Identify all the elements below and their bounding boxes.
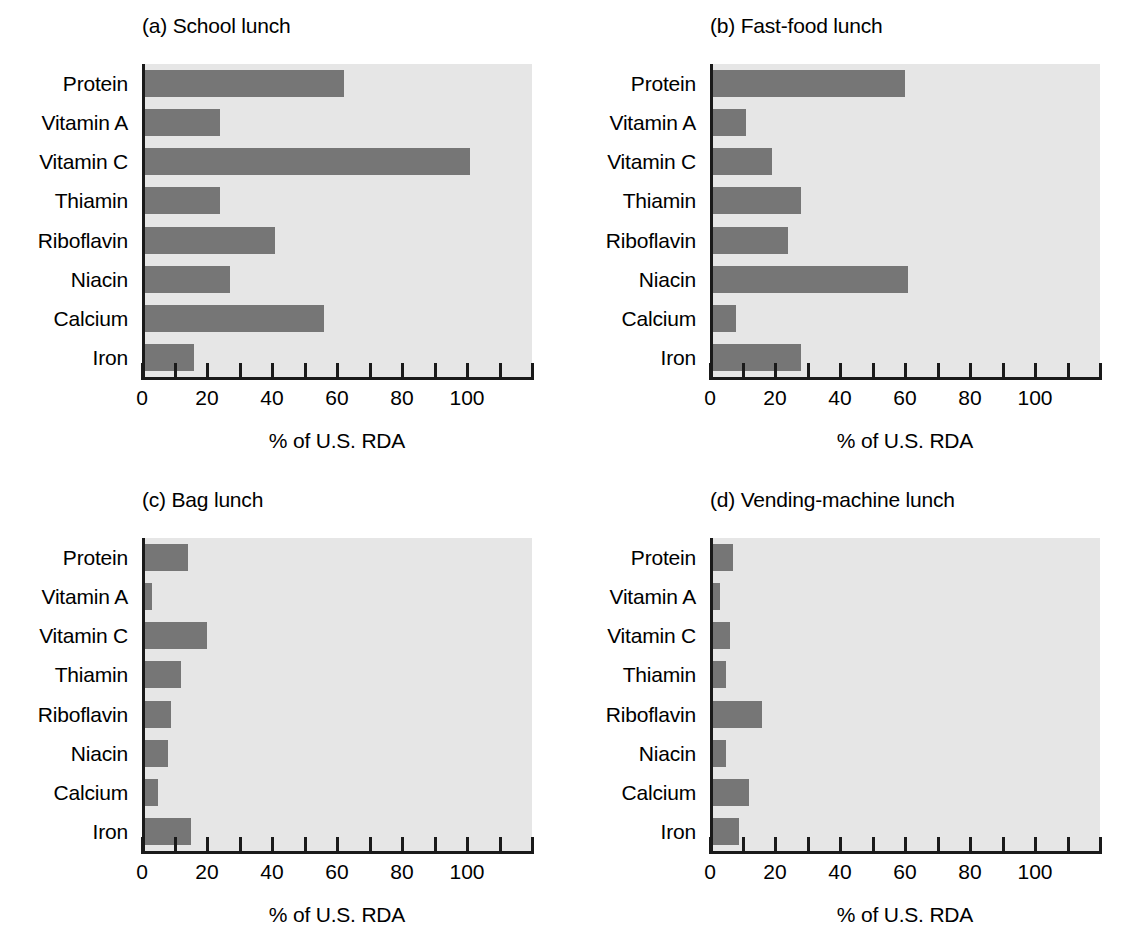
x-tick: [304, 837, 307, 854]
category-label-vitamin-c: Vitamin C: [39, 142, 128, 181]
category-label-calcium: Calcium: [54, 299, 128, 338]
x-tick: [774, 363, 777, 380]
x-tick-label: 100: [449, 860, 484, 884]
bar-protein: [142, 70, 344, 97]
x-axis-title-a: % of U.S. RDA: [142, 429, 532, 453]
bar-row: [710, 773, 1100, 812]
bar-series-d: [710, 538, 1100, 851]
category-labels-d: ProteinVitamin AVitamin CThiaminRiboflav…: [568, 538, 702, 851]
panel-school-lunch: (a) School lunch ProteinVitamin AVitamin…: [0, 4, 560, 474]
x-tick: [1002, 363, 1005, 380]
bar-vitamin-c: [142, 622, 207, 649]
x-tick: [434, 837, 437, 854]
x-tick: [369, 837, 372, 854]
x-tick: [336, 363, 339, 380]
bar-iron: [710, 818, 739, 845]
x-tick: [466, 837, 469, 854]
x-tick-label: 60: [893, 860, 916, 884]
bar-row: [710, 695, 1100, 734]
category-label-protein: Protein: [631, 64, 696, 103]
x-tick: [1034, 363, 1037, 380]
bar-row: [142, 538, 532, 577]
x-tick-label: 40: [828, 860, 851, 884]
x-tick: [531, 837, 534, 854]
x-tick: [174, 363, 177, 380]
x-tick: [239, 837, 242, 854]
x-tick-label: 60: [325, 860, 348, 884]
x-tick-label: 0: [704, 860, 716, 884]
category-label-thiamin: Thiamin: [623, 181, 696, 220]
x-tick-label: 100: [1017, 860, 1052, 884]
x-tick: [742, 363, 745, 380]
bar-row: [142, 616, 532, 655]
bar-protein: [142, 544, 188, 571]
bar-niacin: [710, 266, 908, 293]
panel-title-a: (a) School lunch: [142, 14, 291, 38]
x-tick: [434, 363, 437, 380]
x-tick: [872, 837, 875, 854]
bar-row: [142, 221, 532, 260]
bar-row: [142, 260, 532, 299]
x-tick-label: 0: [136, 386, 148, 410]
category-label-iron: Iron: [93, 812, 128, 851]
bar-row: [710, 103, 1100, 142]
bar-riboflavin: [142, 227, 275, 254]
category-label-vitamin-a: Vitamin A: [609, 577, 696, 616]
x-tick: [807, 363, 810, 380]
bar-row: [142, 64, 532, 103]
bar-iron: [710, 344, 801, 371]
panel-fast-food-lunch: (b) Fast-food lunch ProteinVitamin AVita…: [568, 4, 1128, 474]
x-tick-label: 20: [763, 386, 786, 410]
category-label-protein: Protein: [631, 538, 696, 577]
x-tick-labels-b: 020406080100: [710, 386, 1100, 412]
bar-row: [142, 655, 532, 694]
x-tick-label: 20: [763, 860, 786, 884]
x-tick: [1034, 837, 1037, 854]
x-axis-title-c: % of U.S. RDA: [142, 903, 532, 927]
x-axis-title-b: % of U.S. RDA: [710, 429, 1100, 453]
x-tick: [466, 363, 469, 380]
x-tick: [141, 363, 144, 380]
bar-row: [710, 577, 1100, 616]
x-tick-labels-d: 020406080100: [710, 860, 1100, 886]
x-tick-label: 80: [958, 386, 981, 410]
category-label-vitamin-a: Vitamin A: [609, 103, 696, 142]
category-label-riboflavin: Riboflavin: [606, 221, 696, 260]
x-tick: [401, 363, 404, 380]
bar-row: [142, 103, 532, 142]
bar-row: [710, 64, 1100, 103]
category-label-riboflavin: Riboflavin: [38, 695, 128, 734]
bar-protein: [710, 70, 905, 97]
x-tick: [499, 837, 502, 854]
plot-area-a: [142, 64, 532, 377]
x-tick-label: 20: [195, 386, 218, 410]
category-labels-a: ProteinVitamin AVitamin CThiaminRiboflav…: [0, 64, 134, 377]
x-tick: [709, 363, 712, 380]
x-tick: [839, 363, 842, 380]
plot-area-c: [142, 538, 532, 851]
category-label-calcium: Calcium: [622, 299, 696, 338]
bar-row: [142, 734, 532, 773]
x-tick-label: 80: [390, 386, 413, 410]
x-tick-label: 60: [325, 386, 348, 410]
bar-protein: [710, 544, 733, 571]
x-tick-label: 80: [390, 860, 413, 884]
bar-series-b: [710, 64, 1100, 377]
y-axis-line-c: [142, 538, 145, 851]
plot-area-b: [710, 64, 1100, 377]
x-tick: [304, 363, 307, 380]
x-tick: [401, 837, 404, 854]
panel-title-c: (c) Bag lunch: [142, 488, 263, 512]
x-tick: [969, 837, 972, 854]
bar-vitamin-a: [142, 109, 220, 136]
x-tick-label: 0: [704, 386, 716, 410]
category-label-niacin: Niacin: [639, 260, 696, 299]
bar-thiamin: [142, 661, 181, 688]
bar-calcium: [710, 779, 749, 806]
y-axis-line-a: [142, 64, 145, 377]
x-tick-label: 60: [893, 386, 916, 410]
x-tick-label: 100: [1017, 386, 1052, 410]
category-label-riboflavin: Riboflavin: [606, 695, 696, 734]
x-tick: [531, 363, 534, 380]
panel-title-b: (b) Fast-food lunch: [710, 14, 882, 38]
